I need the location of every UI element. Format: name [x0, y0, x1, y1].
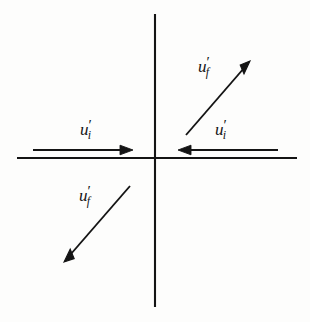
- vector-ui-right-pointing-left: [178, 145, 278, 155]
- vector-label-uf-upper-right: u′f: [198, 58, 213, 75]
- vector-label-ui-right: u′i: [215, 121, 230, 138]
- vector-label-uf-lower-left: u′f: [79, 187, 94, 204]
- vector-ui-left-pointing-right: [33, 145, 133, 155]
- diagram-canvas: [0, 0, 310, 322]
- vector-uf-lower-left: [64, 186, 130, 262]
- vector-label-uf-lower-left-subscript: f: [87, 194, 90, 208]
- vector-label-ui-right-subscript: i: [223, 128, 226, 142]
- vector-ui-left-arrowhead: [120, 145, 133, 155]
- vector-label-uf-upper-right-subscript: f: [206, 65, 209, 79]
- cartesian-axes: [17, 14, 297, 307]
- vector-label-ui-left-subscript: i: [88, 128, 91, 142]
- vector-ui-right-arrowhead: [178, 145, 191, 155]
- vector-diagram-figure: u′f u′i u′i u′f: [0, 0, 310, 322]
- vector-label-ui-left: u′i: [80, 121, 95, 138]
